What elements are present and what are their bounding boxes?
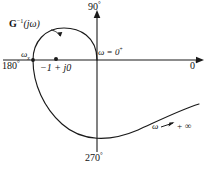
axis-label-270-value: 270 xyxy=(85,152,100,163)
omega-infinity-symbol: ω xyxy=(152,121,158,131)
omega-x-crossing-marker xyxy=(31,58,35,62)
axis-label-90: 90° xyxy=(88,2,101,12)
axis-label-180: 180° xyxy=(2,61,20,71)
omega-infinity-value: + ∞ xyxy=(177,121,192,131)
axis-label-270-degree: ° xyxy=(100,151,103,158)
axis-label-0-degree: ° xyxy=(195,59,198,66)
axis-label-180-value: 180 xyxy=(2,60,17,71)
curve-label-ginv: G−1(jω) xyxy=(9,19,40,29)
omega-zero-text: ω = 0 xyxy=(98,47,119,57)
omega-zero-plus-label: ω = 0+ xyxy=(98,48,123,57)
axis-label-270: 270° xyxy=(85,153,103,163)
omega-x-subscript: x xyxy=(27,55,29,61)
axis-label-0: 0° xyxy=(190,61,198,71)
axis-label-180-degree: ° xyxy=(17,59,20,66)
critical-point-marker xyxy=(54,57,58,61)
axis-label-90-degree: ° xyxy=(98,0,101,7)
critical-point-label: −1 + j0 xyxy=(40,63,71,73)
curve-label-arg: (jω) xyxy=(23,18,40,29)
curve-label-base: G xyxy=(9,18,17,29)
omega-x-label: ωx xyxy=(21,50,30,59)
inverse-polar-plot-figure: G−1(jω) 90° 180° 0° 270° ωx ω = 0+ ω + ∞… xyxy=(0,0,217,172)
axis-label-90-value: 90 xyxy=(88,1,98,12)
omega-infinity-label: ω + ∞ xyxy=(152,122,191,131)
critical-point-text: −1 + j0 xyxy=(40,62,71,73)
omega-zero-superscript: + xyxy=(119,46,122,52)
